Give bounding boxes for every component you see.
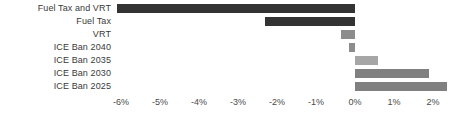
plot-area [0,0,460,95]
axis-tick-label: 0% [348,98,361,107]
axis-tick-label: -4% [191,98,207,107]
bar [355,69,429,78]
bar-chart: Fuel Tax and VRTFuel TaxVRTICE Ban 2040I… [0,0,460,124]
axis-tick-label: -3% [230,98,246,107]
bar [341,30,355,39]
bar [117,4,355,13]
value-axis: -6%-5%-4%-3%-2%-1%0%1%2% [0,96,460,124]
bar [265,17,355,26]
bar [355,56,378,65]
axis-tick-label: 1% [387,98,400,107]
bar [349,43,355,52]
axis-tick-label: -6% [113,98,129,107]
axis-tick-label: -5% [152,98,168,107]
axis-tick-label: -1% [308,98,324,107]
axis-tick-label: 2% [426,98,439,107]
bar [355,82,447,91]
axis-tick-label: -2% [269,98,285,107]
